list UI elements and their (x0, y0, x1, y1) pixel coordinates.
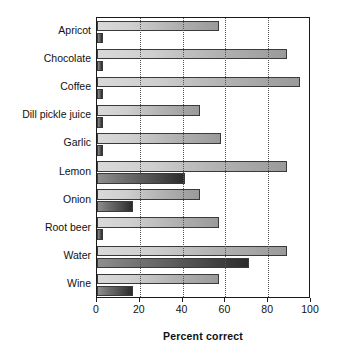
category-axis-labels: ApricotChocolateCoffeeDill pickle juiceG… (0, 17, 91, 298)
bar-dark (97, 229, 103, 240)
bar-light (97, 217, 219, 228)
category-label: Water (0, 250, 91, 261)
bar-dark (97, 258, 249, 269)
x-axis-tick-labels: 020406080100 (0, 303, 338, 319)
category-label: Root beer (0, 222, 91, 233)
bar-group (97, 102, 309, 130)
bar-light (97, 105, 200, 116)
bar-group (97, 243, 309, 271)
category-label: Lemon (0, 166, 91, 177)
bar-group (97, 271, 309, 299)
bar-group (97, 130, 309, 158)
bars-layer (97, 18, 309, 297)
category-label: Wine (0, 278, 91, 289)
x-tick-label: 0 (93, 303, 99, 315)
x-tick-label: 20 (133, 303, 145, 315)
bar-dark (97, 117, 103, 128)
bar-light (97, 274, 219, 285)
bar-group (97, 215, 309, 243)
bar-dark (97, 33, 103, 44)
bar-light (97, 21, 219, 32)
category-label: Dill pickle juice (0, 109, 91, 120)
bar-light (97, 161, 287, 172)
bar-light (97, 246, 287, 257)
bar-dark (97, 173, 185, 184)
x-tick-label: 60 (219, 303, 231, 315)
bar-chart: ApricotChocolateCoffeeDill pickle juiceG… (0, 0, 338, 354)
category-label: Onion (0, 194, 91, 205)
bar-light (97, 133, 221, 144)
x-tick-label: 100 (301, 303, 319, 315)
bar-group (97, 187, 309, 215)
bar-group (97, 74, 309, 102)
category-label: Garlic (0, 137, 91, 148)
bar-group (97, 46, 309, 74)
plot-area (96, 17, 310, 298)
x-tick-label: 80 (261, 303, 273, 315)
x-axis-title: Percent correct (96, 330, 310, 342)
bar-dark (97, 89, 103, 100)
bar-dark (97, 61, 103, 72)
bar-group (97, 159, 309, 187)
x-tick-label: 40 (176, 303, 188, 315)
bar-light (97, 189, 200, 200)
category-label: Apricot (0, 25, 91, 36)
bar-group (97, 18, 309, 46)
category-label: Coffee (0, 81, 91, 92)
bar-dark (97, 286, 133, 297)
bar-light (97, 77, 300, 88)
bar-dark (97, 145, 103, 156)
category-label: Chocolate (0, 53, 91, 64)
bar-light (97, 49, 287, 60)
bar-dark (97, 201, 133, 212)
x-tick (310, 298, 311, 302)
